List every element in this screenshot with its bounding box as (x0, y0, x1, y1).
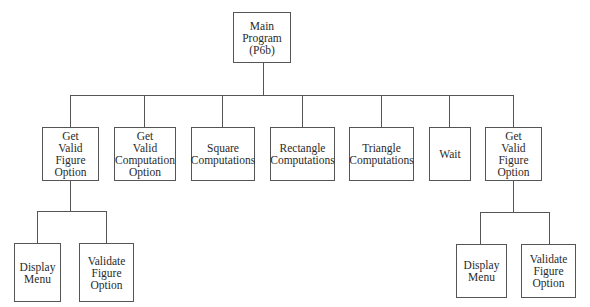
connector-right-sub-1 (480, 212, 481, 244)
connector-stem-2 (144, 95, 145, 127)
node-triangle-computations: Triangle Computations (349, 127, 414, 181)
node-get-valid-computation-option: Get Valid Computation Option (114, 127, 176, 181)
connector-right-sub-2 (549, 212, 550, 244)
connector-right-sub-stem (513, 180, 514, 212)
node-validate-figure-option-left: Validate Figure Option (79, 243, 134, 302)
node-get-valid-figure-option-left: Get Valid Figure Option (42, 127, 99, 181)
node-rectangle-computations: Rectangle Computations (270, 127, 335, 181)
node-display-menu-left: Display Menu (14, 243, 61, 302)
connector-stem-6 (449, 95, 450, 127)
connector-left-sub-stem (70, 180, 71, 211)
connector-left-sub-bus (37, 211, 107, 212)
node-square-computations: Square Computations (191, 127, 255, 181)
connector-stem-7 (513, 95, 514, 127)
connector-stem-1 (70, 95, 71, 127)
node-validate-figure-option-right: Validate Figure Option (521, 244, 576, 298)
connector-stem-4 (302, 95, 303, 127)
connector-right-sub-bus (480, 212, 550, 213)
connector-left-sub-1 (37, 211, 38, 243)
connector-level1-bus (70, 95, 513, 96)
node-get-valid-figure-option-right: Get Valid Figure Option (485, 127, 542, 181)
connector-left-sub-2 (106, 211, 107, 243)
connector-stem-5 (381, 95, 382, 127)
node-main-program: Main Program (P6b) (233, 12, 291, 63)
node-display-menu-right: Display Menu (456, 244, 507, 298)
node-wait: Wait (429, 127, 471, 181)
connector-stem-3 (222, 95, 223, 127)
connector-root-stem (263, 62, 264, 95)
